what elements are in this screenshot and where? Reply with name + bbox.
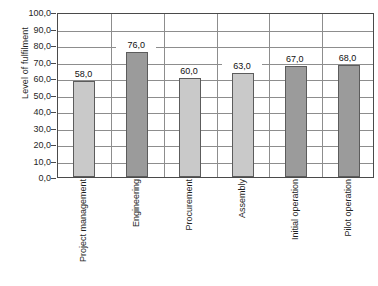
y-axis-tick-mark [51,46,56,47]
x-axis-category-label-slot: Assembly [216,179,269,286]
y-axis-tick-label: 100,0 [5,9,51,18]
x-axis-category-label-slot: Engineering [110,179,163,286]
y-axis-tick-labels: 100,090,080,070,060,050,040,030,020,010,… [0,13,51,178]
y-axis-tick-mark [51,178,56,179]
x-axis-category-label: Initial operation [290,179,299,240]
bar-data-label: 60,0 [169,66,209,76]
y-axis-tick-label: 30,0 [5,124,51,133]
x-axis-category-label-slot: Initial operation [268,179,321,286]
gridline-horizontal [58,47,373,48]
x-axis-category-label-slot: Pilot operation [321,179,374,286]
x-axis-category-label: Pilot operation [343,179,352,237]
y-axis-tick-mark [51,63,56,64]
y-axis-tick-mark [51,112,56,113]
plot-area [57,13,374,178]
gridline-vertical [111,14,112,177]
x-axis-category-label-slot: Procurement [163,179,216,286]
gridline-vertical [164,14,165,177]
y-axis-tick-label: 60,0 [5,75,51,84]
y-axis-tick-mark [51,96,56,97]
y-axis-tick-label: 20,0 [5,141,51,150]
gridline-horizontal [58,97,373,98]
bar-data-label: 76,0 [116,40,156,50]
y-axis-tick-label: 70,0 [5,58,51,67]
bar-data-label: 63,0 [222,61,262,71]
gridline-horizontal [58,80,373,81]
gridline-vertical [322,14,323,177]
gridline-vertical [269,14,270,177]
bar [338,65,360,177]
bar-data-label: 67,0 [275,54,315,64]
gridline-horizontal [58,146,373,147]
y-axis-tick-mark [51,30,56,31]
x-axis-category-label: Project management [79,179,88,262]
y-axis-tick-label: 80,0 [5,42,51,51]
y-axis-tick-label: 90,0 [5,25,51,34]
y-axis-tick-mark [51,13,56,14]
x-axis-category-labels: Project managementEngineeringProcurement… [57,179,374,286]
bar [179,78,201,177]
gridline-horizontal [58,130,373,131]
y-axis-tick-mark [51,79,56,80]
y-axis-tick-label: 0,0 [5,174,51,183]
y-axis-tick-label: 50,0 [5,91,51,100]
gridline-horizontal [58,31,373,32]
y-axis-tick-mark [51,145,56,146]
bar [73,81,95,177]
y-axis-tick-mark [51,129,56,130]
x-axis-category-label-slot: Project management [57,179,110,286]
gridline-vertical [217,14,218,177]
bar [285,66,307,177]
y-axis-tick-label: 40,0 [5,108,51,117]
bar [232,73,254,177]
x-axis-category-label: Assembly [237,179,246,218]
gridline-horizontal [58,64,373,65]
x-axis-category-label: Procurement [185,179,194,231]
gridline-horizontal [58,163,373,164]
bar-data-label: 68,0 [328,53,368,63]
bar-data-label: 58,0 [63,69,103,79]
gridline-horizontal [58,113,373,114]
bar [126,52,148,177]
y-axis-tick-mark [51,162,56,163]
x-axis-category-label: Engineering [132,179,141,227]
bar-chart: Level of fulfilment 100,090,080,070,060,… [0,0,378,286]
y-axis-tick-label: 10,0 [5,157,51,166]
